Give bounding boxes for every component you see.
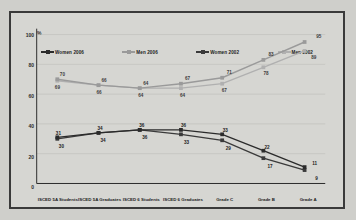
data-label: 36 xyxy=(181,123,186,128)
data-point xyxy=(97,131,101,135)
data-label: 66 xyxy=(97,90,102,95)
data-point xyxy=(55,77,59,81)
data-label: 67 xyxy=(222,88,227,93)
data-point xyxy=(179,82,183,86)
data-label: 34 xyxy=(101,138,106,143)
data-label: 33 xyxy=(223,128,228,133)
data-label: 69 xyxy=(55,85,60,90)
data-point xyxy=(138,86,142,90)
data-label: 89 xyxy=(311,55,316,60)
data-point xyxy=(220,82,224,86)
data-label: 64 xyxy=(143,81,148,86)
data-point xyxy=(262,58,266,62)
data-label: 34 xyxy=(98,126,103,131)
data-point xyxy=(303,49,307,53)
data-label: 36 xyxy=(142,135,147,140)
data-label: 64 xyxy=(180,93,185,98)
data-point xyxy=(303,165,307,169)
data-label: 70 xyxy=(60,72,65,77)
data-label: 17 xyxy=(267,164,272,169)
data-label: 83 xyxy=(268,52,273,57)
data-label: 64 xyxy=(138,93,143,98)
data-label: 31 xyxy=(56,131,61,136)
data-label: 66 xyxy=(102,78,107,83)
data-point xyxy=(220,138,224,142)
data-label: 78 xyxy=(263,71,268,76)
data-label: 95 xyxy=(316,34,321,39)
data-label: 71 xyxy=(227,70,232,75)
data-point xyxy=(303,40,307,44)
chart-frame: % 020406080100 Women 2006Men 2006Women 2… xyxy=(9,11,345,209)
data-point xyxy=(138,128,142,132)
data-point xyxy=(220,132,224,136)
data-label: 22 xyxy=(264,145,269,150)
data-point xyxy=(179,86,183,90)
data-label: 29 xyxy=(226,146,231,151)
data-point xyxy=(262,156,266,160)
data-label: 9 xyxy=(315,176,318,181)
data-label: 36 xyxy=(139,123,144,128)
data-point xyxy=(179,128,183,132)
data-label: 33 xyxy=(184,140,189,145)
data-point xyxy=(220,76,224,80)
chart-plot-area xyxy=(11,13,343,207)
data-point xyxy=(97,83,101,87)
data-point xyxy=(262,65,266,69)
x-axis-tick-grade-a: Grade A xyxy=(274,197,342,203)
data-label: 67 xyxy=(185,76,190,81)
data-point xyxy=(179,132,183,136)
data-label: 30 xyxy=(59,144,64,149)
data-point xyxy=(55,135,59,139)
data-label: 11 xyxy=(312,161,317,166)
